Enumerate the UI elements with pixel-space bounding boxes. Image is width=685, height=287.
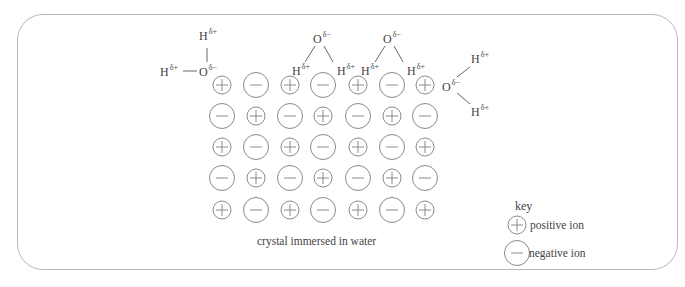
negative-ion-icon <box>278 166 303 191</box>
positive-ion-icon <box>349 76 367 94</box>
positive-ion-icon <box>213 138 231 156</box>
negative-ion-icon <box>244 198 269 223</box>
oxygen-atom: Oδ− <box>383 32 401 45</box>
positive-ion-icon <box>213 76 231 94</box>
positive-ion-icon <box>383 169 401 187</box>
negative-ion-icon <box>346 166 371 191</box>
negative-ion-icon <box>244 73 269 98</box>
positive-ion-icon <box>314 169 332 187</box>
positive-ion-icon <box>314 107 332 125</box>
positive-ion-icon <box>416 201 434 219</box>
hydrogen-atom: Hδ+ <box>471 105 489 118</box>
negative-ion-icon <box>210 166 235 191</box>
negative-ion-icon <box>413 166 438 191</box>
bond-line <box>375 46 385 62</box>
hydrogen-atom: Hδ+ <box>160 65 178 78</box>
negative-ion-icon <box>380 135 405 160</box>
oxygen-atom: Oδ− <box>313 32 331 45</box>
negative-ion-icon <box>380 73 405 98</box>
hydrogen-atom: Hδ+ <box>199 29 217 42</box>
key-title: key <box>515 200 532 212</box>
negative-ion-icon <box>210 104 235 129</box>
negative-ion-icon <box>311 73 336 98</box>
oxygen-atom: Oδ− <box>442 80 460 93</box>
negative-ion-icon <box>346 104 371 129</box>
positive-ion-icon <box>416 76 434 94</box>
crystal-caption: crystal immersed in water <box>257 236 376 248</box>
figure-caption-cutoff <box>18 281 21 287</box>
bond-line <box>324 46 333 62</box>
positive-ion-icon <box>508 216 526 234</box>
positive-ion-icon <box>247 107 265 125</box>
hydrogen-atom: Hδ+ <box>292 64 310 77</box>
key-label-positive: positive ion <box>530 220 584 232</box>
negative-ion-icon <box>244 135 269 160</box>
negative-ion-icon <box>278 104 303 129</box>
positive-ion-icon <box>281 138 299 156</box>
positive-ion-icon <box>349 138 367 156</box>
hydrogen-atom: Hδ+ <box>407 64 425 77</box>
key-label-negative: negative ion <box>529 248 586 260</box>
positive-ion-icon <box>416 138 434 156</box>
positive-ion-icon <box>247 169 265 187</box>
positive-ion-icon <box>213 201 231 219</box>
positive-ion-icon <box>349 201 367 219</box>
bond-line <box>457 67 470 77</box>
bond-line <box>394 46 403 62</box>
bond-line <box>457 93 470 104</box>
negative-ion-icon <box>413 104 438 129</box>
oxygen-atom: Oδ− <box>199 65 217 78</box>
water-bonds <box>183 46 470 104</box>
hydrogen-atom: Hδ+ <box>361 64 379 77</box>
key-icons <box>505 216 530 266</box>
positive-ion-icon <box>383 107 401 125</box>
negative-ion-icon <box>505 241 530 266</box>
hydrogen-atom: Hδ+ <box>471 52 489 65</box>
hydrogen-atom: Hδ+ <box>337 64 355 77</box>
positive-ion-icon <box>281 76 299 94</box>
negative-ion-icon <box>311 198 336 223</box>
bond-line <box>305 46 315 62</box>
negative-ion-icon <box>311 135 336 160</box>
positive-ion-icon <box>281 201 299 219</box>
crystal-lattice <box>210 73 438 223</box>
negative-ion-icon <box>380 198 405 223</box>
